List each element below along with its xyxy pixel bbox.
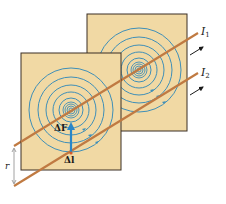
- current-1-arrow: [190, 47, 203, 55]
- current-2-label: I2: [200, 66, 210, 80]
- force-label: ΔF: [54, 123, 68, 133]
- current-2-arrow: [190, 87, 203, 95]
- length-label: Δl: [64, 155, 75, 165]
- separation-label: r: [5, 161, 10, 171]
- parallel-wires-diagram: I1 I2 ΔF Δl r: [0, 0, 226, 204]
- current-1-label: I1: [200, 25, 210, 39]
- separation-arrow: [12, 148, 16, 184]
